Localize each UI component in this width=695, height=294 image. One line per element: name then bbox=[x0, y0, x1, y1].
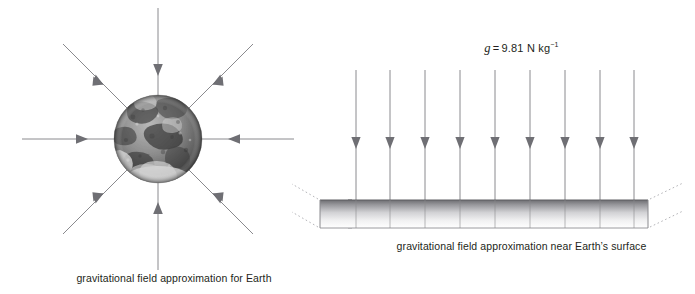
left-panel-radial-field: gravitational field approximation for Ea… bbox=[0, 0, 348, 294]
gravitational-field-figure: gravitational field approximation for Ea… bbox=[0, 0, 695, 294]
left-panel-caption: gravitational field approximation for Ea… bbox=[0, 272, 348, 285]
earth-sphere bbox=[107, 94, 202, 194]
right-panel-uniform-field: g=9.81 N kg−1 bbox=[348, 0, 695, 294]
radial-field-diagram bbox=[0, 0, 348, 294]
earth-surface-slab bbox=[348, 200, 648, 228]
right-panel-caption: gravitational field approximation near E… bbox=[348, 240, 695, 253]
uniform-field-arrowheads bbox=[351, 137, 638, 149]
